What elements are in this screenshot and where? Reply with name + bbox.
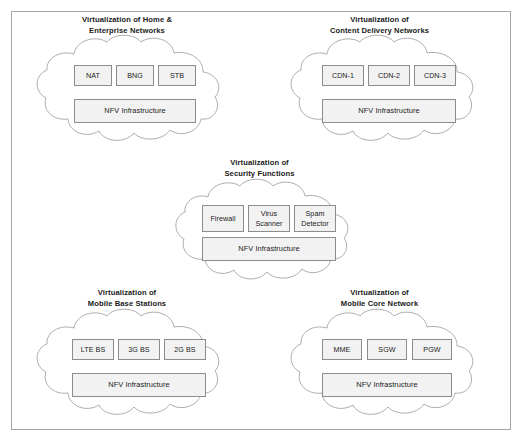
vnf-label-mme: MME — [333, 345, 352, 355]
nfvi-label-mobile-base-stations: NFV Infrastructure — [107, 380, 170, 390]
vnf-label-bng: BNG — [126, 71, 144, 81]
vnf-box-cdn-3[interactable]: CDN-3 — [414, 65, 456, 86]
nfvi-label-security-functions: NFV Infrastructure — [237, 244, 300, 254]
group-mobile-core-network: Virtualization of Mobile Core Network MM… — [272, 287, 487, 420]
nfvi-label-home-enterprise-networks: NFV Infrastructure — [103, 106, 166, 116]
vnf-box-pgw[interactable]: PGW — [412, 339, 452, 360]
vnf-box-sgw[interactable]: SGW — [367, 339, 407, 360]
vnf-box-mme[interactable]: MME — [322, 339, 362, 360]
group-security-functions: Virtualization of Security Functions Fir… — [152, 157, 367, 287]
group-mobile-base-stations: Virtualization of Mobile Base Stations L… — [22, 287, 232, 420]
vnf-box-nat[interactable]: NAT — [74, 65, 112, 86]
diagram-canvas: Virtualization of Home & Enterprise Netw… — [0, 0, 523, 448]
vnf-label-spam-detector: Spam Detector — [300, 209, 330, 228]
vnf-box-stb[interactable]: STB — [158, 65, 196, 86]
vnf-label-cdn-2: CDN-2 — [377, 71, 401, 81]
vnf-label-virus-scanner: Virus Scanner — [254, 209, 283, 228]
vnf-box-2g-bs[interactable]: 2G BS — [164, 339, 206, 360]
vnf-label-3g-bs: 3G BS — [127, 345, 150, 355]
vnf-label-cdn-3: CDN-3 — [423, 71, 447, 81]
vnf-box-firewall[interactable]: Firewall — [202, 205, 244, 232]
vnf-label-firewall: Firewall — [209, 214, 236, 224]
vnf-label-sgw: SGW — [377, 345, 396, 355]
vnf-label-lte-bs: LTE BS — [80, 345, 107, 355]
group-content-delivery-networks: Virtualization of Content Delivery Netwo… — [272, 14, 487, 149]
vnf-box-cdn-1[interactable]: CDN-1 — [322, 65, 364, 86]
nfvi-box-mobile-base-stations[interactable]: NFV Infrastructure — [72, 373, 206, 397]
vnf-box-lte-bs[interactable]: LTE BS — [72, 339, 114, 360]
vnf-box-spam-detector[interactable]: Spam Detector — [294, 205, 336, 232]
vnf-label-pgw: PGW — [422, 345, 441, 355]
nfvi-box-mobile-core-network[interactable]: NFV Infrastructure — [322, 373, 452, 397]
vnf-label-stb: STB — [169, 71, 185, 81]
vnf-label-cdn-1: CDN-1 — [331, 71, 355, 81]
group-home-enterprise-networks: Virtualization of Home & Enterprise Netw… — [22, 14, 232, 149]
nfvi-box-security-functions[interactable]: NFV Infrastructure — [202, 237, 336, 261]
vnf-label-nat: NAT — [85, 71, 101, 81]
nfvi-label-mobile-core-network: NFV Infrastructure — [355, 380, 418, 390]
vnf-box-virus-scanner[interactable]: Virus Scanner — [248, 205, 290, 232]
nfvi-label-content-delivery-networks: NFV Infrastructure — [357, 106, 420, 116]
nfvi-box-home-enterprise-networks[interactable]: NFV Infrastructure — [74, 99, 196, 123]
vnf-label-2g-bs: 2G BS — [173, 345, 196, 355]
vnf-box-cdn-2[interactable]: CDN-2 — [368, 65, 410, 86]
vnf-box-bng[interactable]: BNG — [116, 65, 154, 86]
vnf-box-3g-bs[interactable]: 3G BS — [118, 339, 160, 360]
nfvi-box-content-delivery-networks[interactable]: NFV Infrastructure — [322, 99, 456, 123]
